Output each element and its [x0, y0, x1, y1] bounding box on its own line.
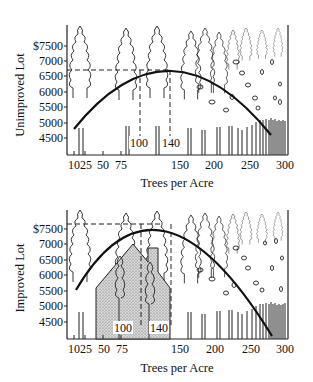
svg-text:150: 150: [171, 158, 189, 172]
marker-100-label: 100: [130, 136, 148, 150]
y-axis-title: Unimproved Lot: [13, 53, 27, 137]
svg-text:300: 300: [276, 158, 294, 172]
marker-140-label: 140: [150, 321, 168, 335]
svg-text:7000: 7000: [39, 237, 63, 251]
svg-text:7000: 7000: [39, 54, 63, 68]
svg-text:10: 10: [68, 342, 80, 356]
svg-text:5000: 5000: [39, 299, 63, 313]
svg-text:$7500: $7500: [33, 39, 63, 53]
y-axis-title: Improved Lot: [13, 243, 27, 313]
chart-unimproved-lot: 100 140 $7500 7000 6500 6000 5500 5000 4…: [13, 25, 294, 190]
svg-text:5500: 5500: [39, 284, 63, 298]
svg-text:250: 250: [242, 342, 260, 356]
y-tick-labels: $7500 7000 6500 6000 5500 5000 4500: [33, 39, 67, 145]
svg-text:5000: 5000: [39, 116, 63, 130]
svg-text:200: 200: [205, 158, 223, 172]
svg-text:50: 50: [97, 158, 109, 172]
marker-100-label: 100: [114, 321, 132, 335]
svg-text:6000: 6000: [39, 268, 63, 282]
svg-text:6500: 6500: [39, 69, 63, 83]
svg-text:6000: 6000: [39, 85, 63, 99]
svg-text:25: 25: [80, 342, 92, 356]
svg-text:25: 25: [80, 158, 92, 172]
y-tick-labels: $7500 7000 6500 6000 5500 5000 4500: [33, 222, 67, 329]
svg-text:200: 200: [206, 342, 224, 356]
svg-text:50: 50: [98, 342, 110, 356]
svg-text:$7500: $7500: [33, 222, 63, 236]
svg-text:75: 75: [115, 158, 127, 172]
svg-text:10: 10: [68, 158, 80, 172]
svg-text:250: 250: [241, 158, 259, 172]
marker-140-label: 140: [162, 136, 180, 150]
svg-text:4500: 4500: [39, 131, 63, 145]
x-axis-title: Trees per Acre: [140, 361, 214, 375]
value-curve: [74, 71, 271, 135]
svg-text:5500: 5500: [39, 100, 63, 114]
svg-text:4500: 4500: [39, 315, 63, 329]
svg-text:6500: 6500: [39, 253, 63, 267]
x-axis-title: Trees per Acre: [140, 176, 214, 190]
svg-text:75: 75: [116, 342, 128, 356]
svg-text:300: 300: [276, 342, 294, 356]
chart-improved-lot: 100 140 $7500 7000 6500 6000 5500 5000 4…: [13, 210, 294, 375]
svg-text:150: 150: [171, 342, 189, 356]
